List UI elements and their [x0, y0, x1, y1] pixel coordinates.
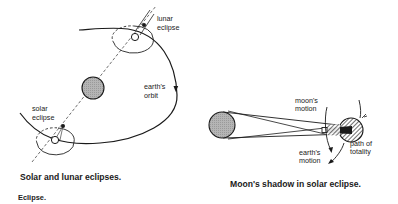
moon-solar-eclipse: [61, 124, 65, 128]
earths-motion-line: [330, 143, 344, 163]
earths-orbit-label-line2: orbit: [144, 91, 158, 100]
moon-lunar-eclipse: [142, 23, 146, 27]
moons-motion-label-line2: motion: [295, 104, 317, 113]
earth-lunar-eclipse: [131, 33, 138, 40]
solar-eclipse-label-line1: solar: [32, 104, 48, 113]
left-figure-caption: Solar and lunar eclipses.: [20, 172, 121, 182]
left-figure: lunar eclipse earth's orbit solar eclips…: [20, 6, 179, 162]
earths-orbit-label-line1: earth's: [144, 82, 166, 91]
section-label: Eclipse.: [18, 193, 46, 202]
earths-motion-arrow: [359, 100, 361, 118]
moons-motion-arrowhead-icon: [329, 147, 334, 153]
solar-eclipse-label-line2: eclipse: [32, 113, 54, 122]
earth-solar-eclipse: [51, 136, 58, 143]
rotation-arrow-icon: [362, 114, 367, 118]
solar-eclipse-group: [36, 124, 74, 155]
sun: [82, 77, 104, 99]
orbit-direction-arrow-icon: [174, 86, 179, 92]
sun-right: [209, 112, 235, 138]
earths-motion-label-line2: motion: [299, 156, 321, 165]
right-figure: moon's motion earth's motion path of tot…: [209, 96, 372, 165]
lunar-eclipse-label-line1: lunar: [157, 14, 174, 23]
lunar-eclipse-label-line2: eclipse: [157, 23, 179, 32]
path-of-totality-label-line2: totality: [350, 147, 371, 156]
right-figure-caption: Moon's shadow in solar eclipse.: [230, 179, 361, 189]
